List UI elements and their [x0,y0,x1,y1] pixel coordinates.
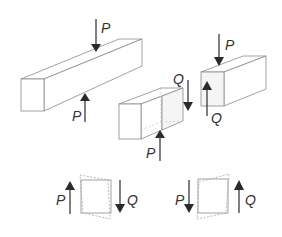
left-segment [119,88,183,139]
beam-force-top-label: P [101,20,111,36]
element-right-force-q: Q [234,180,256,213]
right-segment-force-label: P [225,37,235,53]
element-left-p-label: P [56,192,66,208]
arrow-down-icon [183,102,193,111]
element-right-force-p: P [175,180,194,213]
element-left-force-q: Q [115,180,138,213]
beam-force-bottom: P [72,93,90,124]
left-segment-shear-label: Q [173,71,184,87]
left-segment-force-label: P [146,145,156,161]
element-left-force-p: P [56,181,75,214]
element-right-q-label: Q [245,192,256,208]
arrow-down-icon [184,204,194,213]
element-left [80,175,111,219]
arrow-down-icon [115,204,125,213]
right-segment-shear-label: Q [211,110,222,126]
element-right-p-label: P [175,192,185,208]
shear-diagram: P P Q P [0,0,282,237]
arrow-up-icon [65,181,75,190]
beam-force-bottom-label: P [72,108,82,124]
element-left-q-label: Q [127,192,138,208]
arrow-up-icon [234,180,244,190]
right-segment [201,56,266,106]
element-right [197,174,229,219]
